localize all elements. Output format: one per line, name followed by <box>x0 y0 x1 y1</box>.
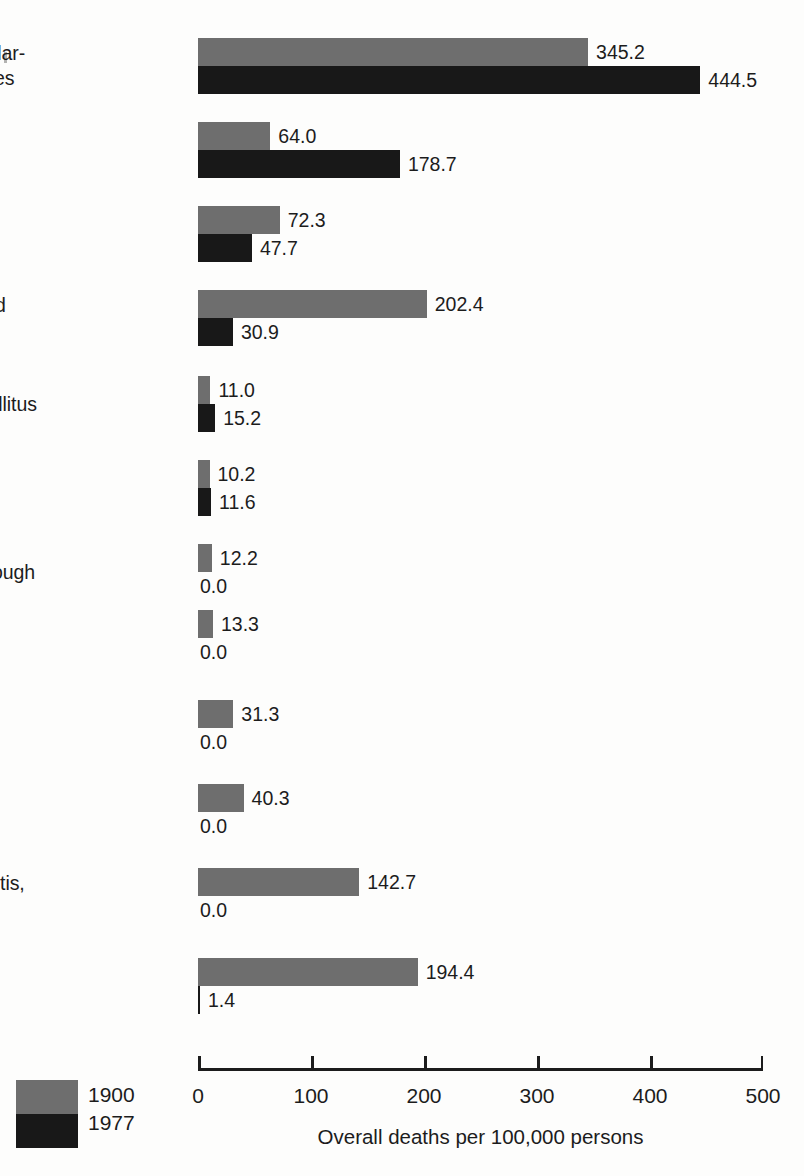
bar-fill <box>198 150 400 178</box>
x-axis-tick-label: 200 <box>406 1084 441 1108</box>
bar-value-label: 30.9 <box>233 321 279 344</box>
category-label: Accidents <box>0 222 190 247</box>
category-label-line: Diphtheria <box>0 800 190 825</box>
bar-value-label: 194.4 <box>418 961 475 984</box>
bar-value-label: 0.0 <box>198 731 227 754</box>
category-label-line: Suicides <box>0 476 190 501</box>
bar-value-label: 11.6 <box>211 491 256 514</box>
bar-value-label: 31.3 <box>233 703 279 726</box>
bar-value-label: 1.4 <box>200 989 235 1012</box>
category-label: Influenza andpneumonia <box>0 293 190 343</box>
legend-swatch-1900 <box>16 1080 78 1114</box>
legend-swatch <box>16 1080 78 1148</box>
legend-label-1900: 1900 <box>88 1083 135 1107</box>
bar-fill <box>198 38 588 66</box>
category-label-line: Accidents <box>0 222 190 247</box>
bar-fill <box>198 66 700 94</box>
bar-fill <box>198 290 427 318</box>
category-label-line: Diabetes mellitus <box>0 392 190 417</box>
bar-fill <box>198 868 359 896</box>
bar-value-label: 12.2 <box>212 547 258 570</box>
x-axis-tick <box>424 1056 427 1070</box>
legend-label-1977: 1977 <box>88 1111 135 1135</box>
bar-value-label: 15.2 <box>215 407 261 430</box>
x-axis-tick-label: 400 <box>632 1084 667 1108</box>
category-label: Whooping cough <box>0 560 190 585</box>
bar-fill <box>198 122 270 150</box>
category-label: Diphtheria <box>0 800 190 825</box>
bar-value-label: 345.2 <box>588 41 645 64</box>
category-label: Cardiovascular-renal diseases <box>0 41 190 91</box>
bar-fill <box>198 700 233 728</box>
bar-value-label: 47.7 <box>252 237 298 260</box>
x-axis-tick-label: 0 <box>192 1084 204 1108</box>
bar-chart-plot: Cardiovascular-renal diseases345.2444.5C… <box>0 0 804 1050</box>
bar-value-label: 0.0 <box>198 575 227 598</box>
category-label-line: Influenza and <box>0 293 190 318</box>
category-label-line: Measles <box>0 626 190 651</box>
bar-value-label: 11.0 <box>210 379 255 402</box>
bar-fill <box>198 234 252 262</box>
bar-value-label: 40.3 <box>244 787 290 810</box>
category-label-line: fevers <box>0 741 190 766</box>
category-label-line: Cancers <box>0 138 190 163</box>
bar-fill <box>198 958 418 986</box>
x-axis-tick <box>537 1056 540 1070</box>
bar-value-label: 0.0 <box>198 899 227 922</box>
category-label: Measles <box>0 626 190 651</box>
x-axis-tick-label: 100 <box>293 1084 328 1108</box>
bar-fill <box>198 206 280 234</box>
category-label-line: Gastritis, colitis, <box>0 871 190 896</box>
bar-value-label: 64.0 <box>270 125 316 148</box>
x-axis-line: 0100200300400500 <box>198 1068 763 1071</box>
bar-fill <box>198 460 210 488</box>
bar-fill <box>198 376 210 404</box>
bar-value-label: 10.2 <box>210 463 256 486</box>
x-axis-tick <box>650 1056 653 1070</box>
category-label-line: pneumonia <box>0 318 190 343</box>
category-label-line: Typhoid and <box>0 691 190 716</box>
bar-value-label: 202.4 <box>427 293 484 316</box>
category-label-line: Whooping cough <box>0 560 190 585</box>
category-label: Cancers <box>0 138 190 163</box>
x-axis-tick-label: 300 <box>519 1084 554 1108</box>
category-label: Gastritis, colitis,and enteritis <box>0 871 190 921</box>
legend-swatch-1977 <box>16 1114 78 1148</box>
category-label: Typhoid andparatyphoidfevers <box>0 691 190 766</box>
bar-value-label: 72.3 <box>280 209 326 232</box>
x-axis-tick <box>311 1056 314 1070</box>
bar-value-label: 178.7 <box>400 153 457 176</box>
category-label: Diabetes mellitus <box>0 392 190 417</box>
bar-value-label: 444.5 <box>700 69 757 92</box>
bar-fill <box>198 784 244 812</box>
category-label-line: and enteritis <box>0 896 190 921</box>
bar-value-label: 0.0 <box>198 815 227 838</box>
bar-fill <box>198 404 215 432</box>
category-label-line: Tuberculosis <box>0 974 190 999</box>
bar-value-label: 142.7 <box>359 871 416 894</box>
bar-fill <box>198 488 211 516</box>
bar-value-label: 13.3 <box>213 613 259 636</box>
bar-fill <box>198 610 213 638</box>
bar-value-label: 0.0 <box>198 641 227 664</box>
category-label-line: paratyphoid <box>0 716 190 741</box>
category-label: Tuberculosis <box>0 974 190 999</box>
category-label-line: renal diseases <box>0 66 190 91</box>
bar-fill <box>198 544 212 572</box>
x-axis-tick-label: 500 <box>745 1084 780 1108</box>
bar-fill <box>198 318 233 346</box>
x-axis-tick <box>198 1056 201 1070</box>
category-label: Suicides <box>0 476 190 501</box>
x-axis-tick <box>761 1056 764 1070</box>
category-label-line: Cardiovascular- <box>0 41 190 66</box>
x-axis-title: Overall deaths per 100,000 persons <box>198 1125 763 1149</box>
